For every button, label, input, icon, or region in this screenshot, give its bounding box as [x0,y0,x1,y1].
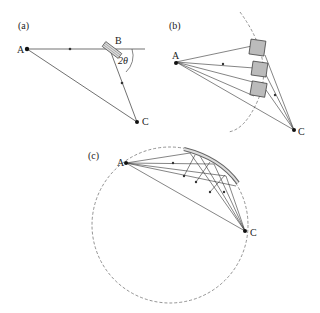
crystal-array-icon [249,39,268,97]
point-c-label: C [142,116,149,127]
point-c-label: C [298,126,305,137]
panel-b-label: (b) [169,20,181,32]
point-b-label: B [115,35,122,46]
point-a-label: A [17,44,25,55]
panel-a: (a) A B C 2θ [17,20,149,127]
panel-a-label: (a) [18,20,29,32]
panel-c: (c) A C [88,147,257,303]
panel-c-label: (c) [88,150,99,162]
panel-b: (b) A C [169,12,305,137]
diagram: (a) A B C 2θ (b) [0,0,320,313]
point-c-label: C [250,227,257,238]
bent-crystal-icon [184,149,238,183]
point-a-label: A [117,157,125,168]
angle-label: 2θ [118,55,128,66]
point-a-label: A [172,50,180,61]
